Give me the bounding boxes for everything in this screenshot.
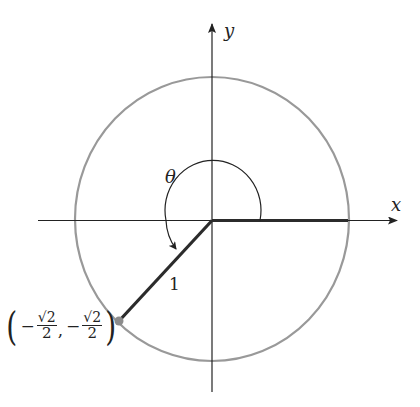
y-denominator: 2: [87, 326, 97, 342]
y-axis-label: y: [224, 20, 234, 41]
y-sign: −: [66, 316, 80, 336]
angle-arc: [165, 160, 261, 249]
y-fraction: √2 2: [82, 310, 102, 341]
point-coordinates: ( − √2 2 , − √2 2 ): [4, 306, 119, 346]
theta-label: θ: [165, 166, 176, 187]
close-paren: ): [106, 306, 117, 346]
x-axis-label: x: [391, 194, 401, 215]
radius-label: 1: [169, 274, 180, 294]
x-fraction: √2 2: [37, 310, 57, 341]
open-paren: (: [6, 306, 17, 346]
terminal-side: [119, 221, 212, 322]
x-sign: −: [21, 316, 35, 336]
x-denominator: 2: [42, 326, 52, 342]
comma: ,: [58, 320, 63, 340]
